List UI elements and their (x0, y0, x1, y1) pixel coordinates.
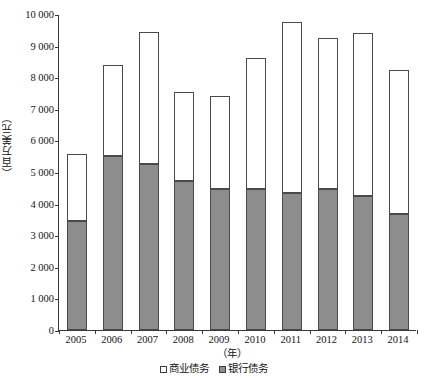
x-tick-label: 2010 (235, 334, 275, 346)
y-tick-mark (55, 15, 59, 16)
bar-segment-commercial-debt (353, 33, 373, 196)
bar-segment-commercial-debt (210, 96, 230, 189)
y-tick-mark (55, 173, 59, 174)
bar-segment-bank-debt (139, 164, 159, 330)
bar-segment-bank-debt (210, 189, 230, 330)
legend-item: 商业债务 (160, 362, 209, 375)
bar-group (210, 14, 230, 330)
y-tick-mark (55, 205, 59, 206)
chart-legend: 商业债务银行债务 (0, 362, 427, 375)
y-tick-label: 2 000 (14, 263, 54, 274)
plot-area (58, 15, 416, 331)
x-tick-label: 2009 (199, 334, 239, 346)
x-tick-label: 2007 (128, 334, 168, 346)
bar-group (318, 14, 338, 330)
bar-segment-commercial-debt (246, 58, 266, 189)
y-tick-label: 3 000 (14, 231, 54, 242)
legend-swatch-icon (219, 366, 226, 373)
bar-group (353, 14, 373, 330)
x-tick-label: 2014 (378, 334, 418, 346)
bar-segment-bank-debt (389, 214, 409, 330)
bar-group (246, 14, 266, 330)
y-tick-label: 1 000 (14, 294, 54, 305)
legend-item: 银行债务 (219, 362, 268, 375)
x-tick-label: 2006 (92, 334, 132, 346)
bar-segment-commercial-debt (389, 70, 409, 214)
bar-group (389, 14, 409, 330)
x-tick-label: 2008 (163, 334, 203, 346)
bar-segment-commercial-debt (103, 65, 123, 157)
y-tick-label: 9 000 (14, 42, 54, 53)
y-tick-mark (55, 78, 59, 79)
bar-segment-bank-debt (103, 156, 123, 330)
bar-group (282, 14, 302, 330)
y-tick-mark (55, 47, 59, 48)
x-tick-label: 2013 (342, 334, 382, 346)
y-tick-mark (55, 299, 59, 300)
legend-swatch-icon (160, 366, 167, 373)
bar-group (139, 14, 159, 330)
bar-group (67, 14, 87, 330)
y-tick-label: 8 000 (14, 73, 54, 84)
x-tick-label: 2011 (271, 334, 311, 346)
bar-segment-commercial-debt (139, 32, 159, 164)
bar-segment-commercial-debt (318, 38, 338, 188)
y-tick-mark (55, 141, 59, 142)
bar-segment-commercial-debt (67, 154, 87, 221)
y-tick-label: 4 000 (14, 200, 54, 211)
stacked-bar-chart: （百万美元） 10 0009 0008 0007 0006 0005 0004 … (0, 0, 427, 378)
x-axis-title: （年） (0, 348, 427, 360)
bar-segment-bank-debt (174, 181, 194, 330)
bar-segment-bank-debt (318, 189, 338, 330)
y-tick-label: 6 000 (14, 136, 54, 147)
y-axis-tick-labels: 10 0009 0008 0007 0006 0005 0004 0003 00… (14, 0, 54, 378)
bar-segment-commercial-debt (282, 22, 302, 193)
y-tick-label: 0 (14, 326, 54, 337)
y-tick-mark (55, 236, 59, 237)
legend-label: 银行债务 (228, 362, 268, 375)
x-tick-label: 2005 (56, 334, 96, 346)
y-tick-label: 7 000 (14, 105, 54, 116)
y-tick-label: 10 000 (14, 10, 54, 21)
bar-segment-commercial-debt (174, 92, 194, 181)
bar-segment-bank-debt (282, 193, 302, 330)
bar-group (174, 14, 194, 330)
bar-group (103, 14, 123, 330)
legend-label: 商业债务 (169, 362, 209, 375)
y-tick-mark (55, 268, 59, 269)
x-tick-label: 2012 (307, 334, 347, 346)
bars-layer (59, 15, 416, 330)
bar-segment-bank-debt (246, 189, 266, 330)
bar-segment-bank-debt (67, 221, 87, 330)
bar-segment-bank-debt (353, 196, 373, 330)
y-tick-label: 5 000 (14, 168, 54, 179)
y-tick-mark (55, 110, 59, 111)
